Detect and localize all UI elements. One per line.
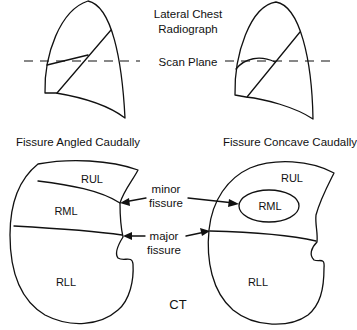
lung-fissure-diagram: Lateral Chest Radiograph Scan Plane Fiss… xyxy=(0,0,357,330)
left-lateral-lung xyxy=(45,1,125,118)
left-lobe-rul: RUL xyxy=(81,173,103,185)
left-caption: Fissure Angled Caudally xyxy=(16,136,140,148)
major-label-1: major xyxy=(150,230,179,242)
title-line-1: Lateral Chest xyxy=(154,8,223,20)
right-ct-major-fissure xyxy=(210,231,316,241)
left-ct-major-fissure xyxy=(14,226,122,235)
right-major-fissure-line xyxy=(247,32,300,97)
left-ct-minor-fissure xyxy=(38,181,120,203)
right-ct-outline xyxy=(208,162,334,325)
major-label-2: fissure xyxy=(147,244,181,256)
right-lobe-rul: RUL xyxy=(281,172,303,184)
right-lobe-rml: RML xyxy=(258,200,281,212)
ct-label: CT xyxy=(169,297,186,312)
major-fissure-annotation: major fissure xyxy=(123,228,210,256)
right-ct-slice: RUL RML RLL xyxy=(208,162,334,325)
minor-arrow-right-head xyxy=(228,199,239,207)
scan-plane-label: Scan Plane xyxy=(159,56,218,68)
minor-arrow-right-line xyxy=(188,198,234,203)
minor-fissure-annotation: minor fissure xyxy=(120,183,239,209)
right-minor-fissure-curve xyxy=(236,58,275,69)
left-ct-outline xyxy=(10,161,138,324)
left-lobe-rll: RLL xyxy=(56,276,76,288)
major-arrow-left-head xyxy=(123,232,132,240)
minor-label-1: minor xyxy=(152,183,181,195)
title-line-2: Radiograph xyxy=(158,23,217,35)
left-lobe-rml: RML xyxy=(54,205,77,217)
minor-label-2: fissure xyxy=(149,197,183,209)
left-major-fissure-line xyxy=(57,30,111,93)
right-caption: Fissure Concave Caudally xyxy=(223,136,357,148)
right-lobe-rll: RLL xyxy=(248,276,268,288)
left-ct-slice: RUL RML RLL xyxy=(10,161,138,324)
